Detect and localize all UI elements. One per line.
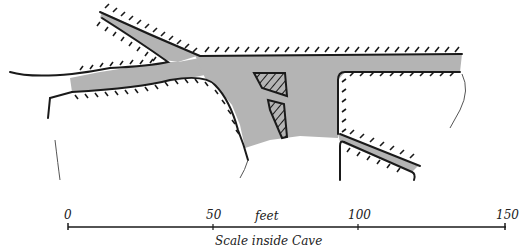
lower-right-branch [338,134,418,172]
scale-label-0: 0 [64,208,72,222]
scale-unit-label: feet [254,209,279,223]
scale-label-150: 150 [496,208,519,222]
wall-lower-right-bottom [340,142,344,181]
wall-left-outer [50,92,72,98]
scale-caption: Scale inside Cave [215,234,322,248]
scale-label-100: 100 [348,208,371,222]
wall-main-right [338,72,460,134]
wall-left-down [48,98,50,118]
scale-bar: 0 50 100 150 feet Scale inside Cave [64,208,519,248]
main-east-passage [195,54,462,148]
cave-plan-diagram: 0 50 100 150 feet Scale inside Cave [0,0,523,250]
scale-label-50: 50 [206,208,222,222]
